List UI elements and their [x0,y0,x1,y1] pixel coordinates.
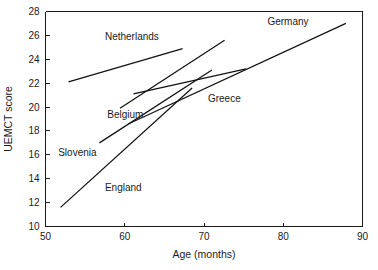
y-axis-tick-label: 14 [28,173,40,184]
y-axis-tick-label: 24 [28,54,40,65]
x-axis-tick-label: 90 [357,231,369,242]
plot-frame [46,12,363,227]
series-label-england: England [105,182,142,193]
uemct-score-vs-age-line-chart: 101214161820222426285060708090Age (month… [0,0,378,270]
y-axis-tick-label: 26 [28,30,40,41]
y-axis-tick-label: 20 [28,102,40,113]
series-line-greece [99,70,212,143]
y-axis-tick-label: 10 [28,221,40,232]
chart-container: 101214161820222426285060708090Age (month… [0,0,378,270]
y-axis-tick-label: 18 [28,125,40,136]
x-axis-title: Age (months) [172,248,235,260]
series-line-netherlands [68,49,182,82]
x-axis-tick-label: 60 [119,231,131,242]
series-line-germany [129,23,346,123]
series-label-slovenia: Slovenia [58,147,97,158]
x-axis-tick-label: 80 [278,231,290,242]
y-axis-title: UEMCT score [2,86,14,152]
y-axis-tick-label: 16 [28,149,40,160]
series-label-netherlands: Netherlands [105,31,159,42]
y-axis-tick-label: 12 [28,197,40,208]
y-axis-tick-label: 22 [28,78,40,89]
x-axis-tick-label: 50 [40,231,52,242]
y-axis-tick-label: 28 [28,6,40,17]
x-axis-tick-label: 70 [198,231,210,242]
series-label-greece: Greece [208,93,241,104]
series-label-germany: Germany [267,16,308,27]
